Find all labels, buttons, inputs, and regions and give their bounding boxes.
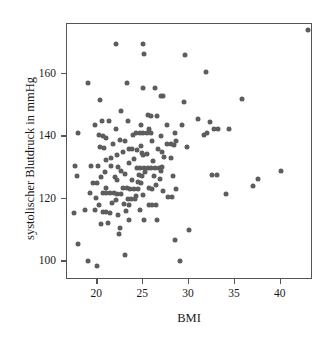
data-point (150, 139, 155, 144)
data-point (154, 217, 159, 222)
y-tick-mark (61, 260, 66, 261)
data-point (140, 150, 145, 155)
x-tick-mark (96, 279, 97, 284)
data-points-layer (67, 24, 311, 278)
data-point (141, 42, 146, 47)
x-tick-label: 25 (136, 287, 148, 299)
data-point (109, 200, 114, 205)
x-tick-mark (188, 279, 189, 284)
data-point (109, 156, 114, 161)
data-point (133, 193, 138, 198)
data-point (101, 145, 106, 150)
data-point (169, 195, 174, 200)
data-point (93, 208, 98, 213)
data-point (142, 51, 147, 56)
data-point (102, 170, 107, 175)
data-point (161, 189, 166, 194)
data-point (161, 93, 166, 98)
data-point (144, 152, 149, 157)
y-tick-mark (61, 73, 66, 74)
data-point (182, 100, 187, 105)
data-point (210, 173, 215, 178)
data-point (196, 117, 201, 122)
data-point (86, 259, 91, 264)
data-point (118, 225, 123, 230)
data-point (98, 98, 103, 103)
y-tick-mark (61, 135, 66, 136)
data-point (122, 139, 127, 144)
data-point (130, 178, 135, 183)
data-point (142, 217, 147, 222)
data-point (179, 122, 184, 127)
data-point (154, 203, 159, 208)
data-point (116, 213, 121, 218)
data-point (125, 118, 130, 123)
data-point (110, 142, 115, 147)
data-point (113, 126, 118, 131)
data-point (127, 160, 132, 165)
y-axis-title: systolischer Blutdruck in mmHg (23, 44, 38, 274)
data-point (86, 81, 91, 86)
data-point (137, 207, 142, 212)
data-point (162, 154, 167, 159)
data-point (158, 168, 163, 173)
data-point (151, 159, 156, 164)
data-point (174, 187, 179, 192)
data-point (94, 195, 99, 200)
x-tick-label: 20 (91, 287, 103, 299)
data-point (113, 42, 118, 47)
data-point (278, 168, 283, 173)
x-tick-mark (142, 279, 143, 284)
data-point (226, 126, 231, 131)
data-point (205, 131, 210, 136)
data-point (183, 53, 188, 58)
data-point (251, 184, 256, 189)
data-point (117, 231, 122, 236)
data-point (95, 181, 100, 186)
data-point (75, 174, 80, 179)
data-point (152, 174, 157, 179)
x-tick-label: 40 (274, 287, 286, 299)
data-point (139, 180, 144, 185)
data-point (97, 203, 102, 208)
data-point (139, 123, 144, 128)
data-point (112, 174, 117, 179)
data-point (120, 150, 125, 155)
data-point (135, 186, 140, 191)
data-point (104, 135, 109, 140)
y-tick-mark (61, 198, 66, 199)
data-point (173, 131, 178, 136)
x-tick-mark (234, 279, 235, 284)
data-point (83, 207, 88, 212)
x-tick-mark (280, 279, 281, 284)
data-point (95, 263, 100, 268)
data-point (185, 145, 190, 150)
data-point (223, 192, 228, 197)
x-axis-title: BMI (177, 311, 201, 326)
data-point (126, 203, 131, 208)
data-point (214, 173, 219, 178)
data-point (131, 132, 136, 137)
data-point (158, 134, 163, 139)
data-point (87, 190, 92, 195)
data-point (141, 86, 146, 91)
data-point (143, 170, 148, 175)
data-point (119, 192, 124, 197)
data-point (123, 209, 128, 214)
data-point (103, 157, 108, 162)
data-point (150, 187, 155, 192)
data-point (119, 168, 124, 173)
data-point (171, 174, 176, 179)
scatter-plot-figure: 2025303540 100120140160 BMI systolischer… (0, 0, 328, 338)
data-point (108, 210, 113, 215)
data-point (157, 176, 162, 181)
data-point (159, 150, 164, 155)
data-point (93, 123, 98, 128)
data-point (88, 164, 93, 169)
data-point (203, 70, 208, 75)
data-point (106, 220, 111, 225)
data-point (134, 148, 139, 153)
data-point (177, 259, 182, 264)
data-point (154, 114, 159, 119)
data-point (139, 143, 144, 148)
